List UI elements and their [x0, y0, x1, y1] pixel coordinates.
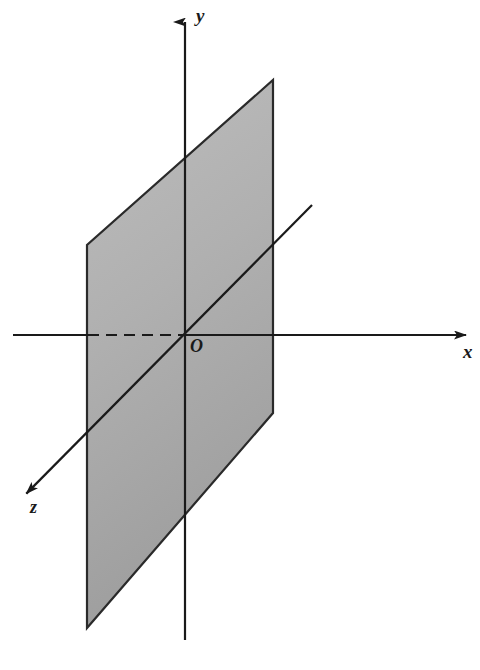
y-axis-label: y [196, 6, 204, 25]
plane-polygon [87, 80, 273, 628]
x-axis-label: x [463, 342, 473, 361]
z-axis-label: z [30, 498, 37, 516]
origin-label: O [190, 337, 203, 355]
coordinate-system-svg [0, 0, 480, 670]
figure-canvas: y x z O [0, 0, 480, 670]
